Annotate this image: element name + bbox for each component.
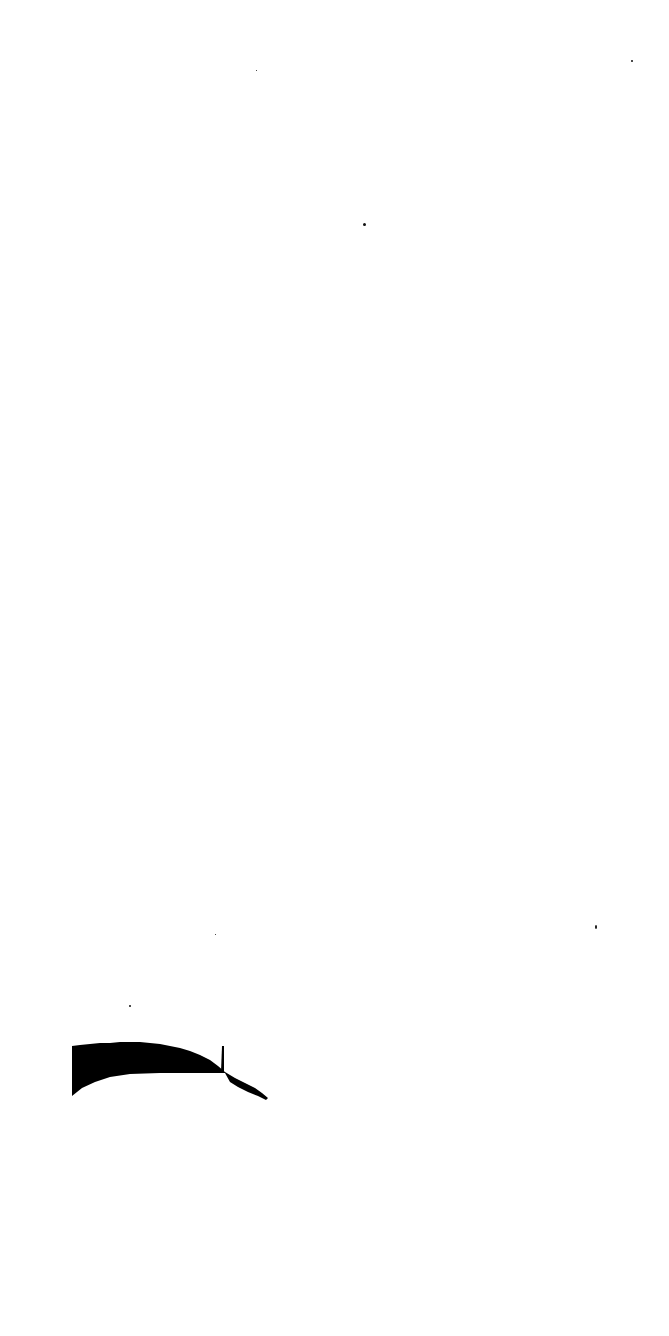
filled-area [72,1042,268,1100]
blank-page [0,0,669,1336]
area-shape-fragment [0,0,669,1336]
spike [221,1046,224,1072]
